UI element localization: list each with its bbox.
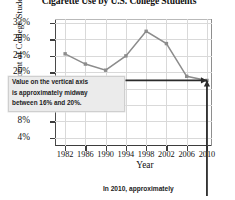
- y-axis-tick-label: 20%: [0, 66, 30, 76]
- bottom-caption: In 2010, approximately: [103, 185, 235, 192]
- annotation-line: is approximately midway: [12, 88, 128, 99]
- data-point-marker: [84, 62, 87, 65]
- data-point-marker: [124, 54, 127, 57]
- data-point-marker: [63, 52, 66, 55]
- chart-title: Cigarette Use by U.S. College Students: [14, 0, 224, 6]
- data-point-marker: [104, 69, 107, 72]
- y-axis-tick-label: 32%: [0, 17, 30, 27]
- y-axis-tick-label: 8%: [0, 115, 30, 125]
- data-point-marker: [165, 42, 168, 45]
- annotation-line: between 16% and 20%.: [12, 98, 128, 109]
- y-axis-tick-label: 4%: [0, 132, 30, 142]
- data-point-marker: [185, 75, 188, 78]
- chart-figure: Cigarette Use by U.S. College Students P…: [0, 0, 235, 200]
- annotation-callout-text: Value on the vertical axisis approximate…: [12, 77, 128, 109]
- y-axis-tick-label: 28%: [0, 33, 30, 43]
- series-line: [65, 31, 207, 80]
- data-point-marker: [144, 30, 147, 33]
- x-axis-title: Year: [55, 160, 235, 170]
- annotation-line: Value on the vertical axis: [12, 77, 128, 88]
- y-axis-tick-label: 24%: [0, 50, 30, 60]
